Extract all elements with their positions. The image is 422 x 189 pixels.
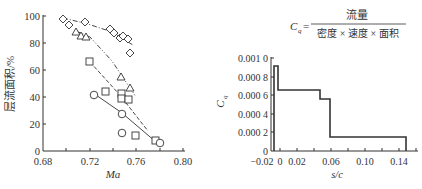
left-x-tick-labels: 0.68 0.72 0.76 0.80 — [34, 156, 192, 167]
svg-text:C: C — [290, 20, 298, 32]
svg-text:q: q — [298, 27, 302, 35]
svg-text:流量: 流量 — [346, 8, 368, 21]
right-x-axis-title: s/c — [331, 169, 343, 180]
right-chart: C q = 流量 密度 × 速度 × 面积 0.001 0 0.000 8 0.… — [214, 8, 418, 180]
left-x-axis-title: Ma — [105, 168, 121, 180]
right-x-tick-labels: −0.02 0 0.02 0.06 0.10 0.14 — [250, 156, 407, 167]
right-y-tick-labels: 0.001 0 0.000 8 0.000 6 0.000 4 0.000 2 … — [238, 53, 268, 157]
svg-text:q: q — [221, 95, 229, 99]
svg-text:0.000 2: 0.000 2 — [238, 127, 268, 138]
svg-text:0.80: 0.80 — [174, 156, 192, 167]
figure: 100 80 60 40 20 0 0.68 0.72 0.76 0.80 Ma… — [0, 0, 422, 189]
svg-text:密度 × 速度 × 面积: 密度 × 速度 × 面积 — [317, 27, 398, 39]
svg-text:0.10: 0.10 — [356, 156, 374, 167]
svg-text:0.68: 0.68 — [34, 156, 52, 167]
svg-text:0.02: 0.02 — [288, 156, 306, 167]
svg-text:0.72: 0.72 — [81, 156, 99, 167]
diamond-markers — [59, 15, 134, 57]
left-y-tick-labels: 100 80 60 40 20 0 — [24, 11, 40, 157]
cq-formula: C q = 流量 密度 × 速度 × 面积 — [290, 8, 406, 39]
svg-text:0.000 8: 0.000 8 — [238, 72, 268, 83]
right-y-axis-title: C q — [214, 95, 229, 108]
cq-step-line — [274, 66, 406, 151]
svg-text:C: C — [214, 100, 226, 108]
svg-text:0.000 4: 0.000 4 — [238, 109, 268, 120]
svg-text:0.001 0: 0.001 0 — [238, 53, 268, 64]
svg-text:0.06: 0.06 — [322, 156, 340, 167]
left-y-axis-title: 层流面积/% — [3, 56, 16, 112]
svg-text:0.76: 0.76 — [127, 156, 145, 167]
svg-text:0: 0 — [278, 156, 283, 167]
svg-text:60: 60 — [30, 65, 41, 76]
svg-text:80: 80 — [30, 38, 41, 49]
svg-text:100: 100 — [24, 11, 40, 22]
left-chart: 100 80 60 40 20 0 0.68 0.72 0.76 0.80 Ma… — [3, 11, 192, 180]
svg-text:40: 40 — [30, 92, 41, 103]
svg-text:−0.02: −0.02 — [250, 156, 273, 167]
svg-text:20: 20 — [30, 119, 41, 130]
svg-text:=: = — [303, 20, 309, 32]
svg-text:0.14: 0.14 — [390, 156, 408, 167]
svg-text:0.000 6: 0.000 6 — [238, 90, 268, 101]
